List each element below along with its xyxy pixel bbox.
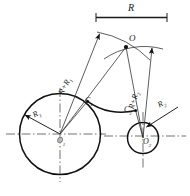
label-center-o2: O2 — [143, 137, 151, 148]
label-center-o1: O1 — [57, 136, 65, 147]
label-tangent-c2: C2 — [124, 105, 132, 116]
line-o1-c1 — [60, 101, 88, 134]
radius-arrow-r2 — [147, 107, 179, 127]
dimension-line-R — [96, 13, 167, 22]
label-apex-O: O — [129, 33, 136, 43]
label-R: R — [128, 2, 134, 13]
radius-arrow-r1 — [25, 115, 60, 134]
drawing-canvas: R O R+R1 R+R2 C1 C2 O1 O2 R1 R2 — [0, 0, 190, 196]
label-tangent-c1: C1 — [85, 96, 93, 107]
apex-point — [124, 45, 128, 49]
